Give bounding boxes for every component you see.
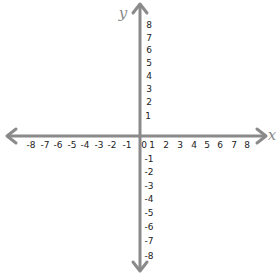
y-tick-label: 3: [146, 85, 152, 94]
x-tick-label: 6: [217, 141, 223, 150]
y-tick-label: -3: [145, 182, 154, 191]
x-tick-label: 3: [177, 141, 183, 150]
x-tick-label: -2: [108, 141, 117, 150]
y-tick-label: 6: [146, 46, 152, 55]
y-axis-name: y: [119, 4, 127, 22]
x-tick-label: -5: [68, 141, 77, 150]
x-tick-label: 4: [191, 141, 197, 150]
x-tick-label: -8: [27, 141, 36, 150]
y-tick-label: 4: [146, 72, 152, 81]
y-tick-label: -2: [145, 168, 154, 177]
y-tick-label: 5: [146, 59, 152, 68]
y-tick-label: 7: [146, 34, 152, 43]
x-tick-label: 5: [204, 141, 210, 150]
x-tick-label: -3: [95, 141, 104, 150]
y-tick-label: 2: [146, 98, 152, 107]
y-tick-label: -4: [145, 195, 154, 204]
x-tick-label: -4: [81, 141, 90, 150]
x-tick-label-origin: 0: [141, 141, 147, 150]
x-tick-label: 2: [163, 141, 169, 150]
x-tick-label: 1: [149, 141, 155, 150]
x-tick-label: 8: [244, 141, 250, 150]
y-tick-label: 8: [146, 21, 152, 30]
x-tick-label: -7: [41, 141, 50, 150]
axes-graphic: [0, 0, 279, 275]
y-tick-label: -8: [145, 252, 154, 261]
coordinate-plane: y x -8 -7 -6 -5 -4 -3 -2 -1 0 1 2 3 4 5 …: [0, 0, 279, 275]
x-tick-label: -1: [123, 141, 132, 150]
y-tick-label: -7: [145, 237, 154, 246]
y-tick-label: -5: [145, 209, 154, 218]
y-tick-label: -6: [145, 223, 154, 232]
x-axis-name: x: [268, 126, 276, 144]
y-tick-label: -1: [145, 155, 154, 164]
x-tick-label: -6: [54, 141, 63, 150]
y-tick-label: 1: [145, 112, 151, 121]
x-tick-label: 7: [231, 141, 237, 150]
